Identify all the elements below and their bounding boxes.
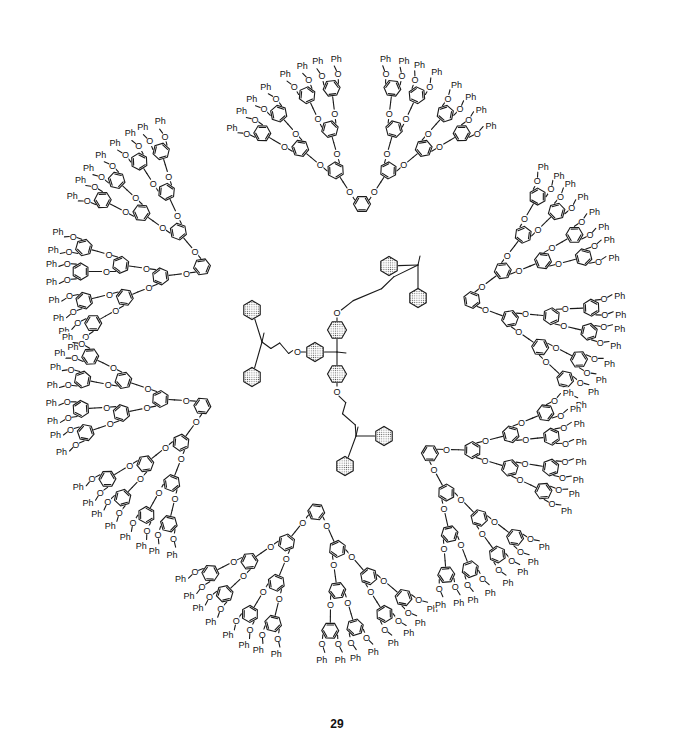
double-bond — [442, 569, 449, 570]
ether-bond — [450, 138, 455, 141]
methylene-bond — [530, 314, 537, 315]
phenyl-terminal-label: Ph — [335, 655, 346, 665]
oxygen-atom: O — [106, 290, 113, 300]
oxygen-atom: O — [66, 291, 73, 301]
methylene-bond — [105, 313, 111, 316]
phenyl-terminal-label: Ph — [48, 245, 59, 255]
methylene-bond — [115, 207, 121, 210]
phenyl-terminal-label: Ph — [565, 179, 576, 189]
double-bond — [545, 434, 546, 441]
methyl-bond — [356, 427, 358, 436]
ether-bond — [538, 438, 543, 439]
ether-bond — [411, 103, 413, 108]
dendrimer-structure-diagram: OOO OOOOPhOPhOOPhOPhOOOPhOPhOOPhOPhOOOOP… — [0, 0, 674, 749]
phenyl-terminal-label: Ph — [435, 600, 446, 610]
oxygen-atom: O — [591, 354, 598, 364]
methylene-bond — [329, 530, 332, 536]
phenyl-terminal-label: Ph — [608, 253, 619, 263]
benzyl-bond — [556, 504, 561, 505]
oxygen-atom: O — [436, 584, 443, 594]
phenyl-terminal-label: Ph — [48, 295, 59, 305]
ether-bond — [335, 577, 336, 582]
methyl-bond — [262, 333, 264, 342]
oxygen-atom: O — [183, 396, 190, 406]
benzyl-bond — [62, 370, 67, 371]
methylene-bond — [523, 335, 529, 339]
benzyl-bond — [93, 175, 98, 176]
double-bond — [503, 551, 504, 558]
oxygen-atom: O — [317, 160, 324, 170]
ether-bond — [332, 536, 334, 541]
oxygen-atom: O — [126, 461, 133, 471]
phenyl-terminal-label: Ph — [554, 171, 565, 181]
benzyl-ring — [73, 263, 88, 280]
phenyl-terminal-label: Ph — [46, 277, 57, 287]
oxygen-atom: O — [386, 109, 393, 119]
oxygen-atom: O — [143, 264, 150, 274]
oxygen-atom: O — [137, 474, 144, 484]
propyl-bond — [339, 396, 346, 403]
phenyl-terminal-label: Ph — [205, 617, 216, 627]
ether-bond — [186, 431, 189, 435]
oxygen-atom: O — [65, 247, 72, 257]
ether-bond — [492, 276, 496, 279]
oxygen-atom: O — [522, 459, 529, 469]
benzyl-bond — [602, 257, 606, 260]
ether-bond — [218, 567, 223, 569]
oxygen-atom: O — [560, 321, 567, 331]
propyl-bond — [353, 289, 381, 301]
ether-bond — [131, 383, 136, 385]
phenyl-terminal-label: Ph — [485, 121, 496, 131]
ether-bond — [92, 297, 97, 298]
phenyl-terminal-label: Ph — [316, 655, 327, 665]
phenyl-terminal-label: Ph — [539, 542, 550, 552]
propyl-bond — [280, 343, 289, 354]
methylene-bond — [103, 363, 109, 366]
oxygen-atom: O — [522, 309, 529, 319]
oxygen-atom: O — [482, 305, 489, 315]
oxygen-atom: O — [405, 608, 412, 618]
oxygen-atom: O — [283, 554, 290, 564]
methylene-bond — [408, 108, 411, 114]
oxygen-atom: O — [65, 413, 72, 423]
oxygen-atom: O — [549, 499, 556, 509]
phenyl-terminal-label: Ph — [167, 550, 178, 560]
methylene-bond — [135, 267, 142, 268]
oxygen-atom: O — [479, 574, 486, 584]
oxygen-atom: O — [508, 556, 515, 566]
oxygen-atom: O — [597, 338, 604, 348]
ether-bond — [128, 487, 132, 491]
oxygen-atom: O — [191, 567, 198, 577]
methylene-bond — [524, 266, 530, 269]
benzyl-bond — [60, 253, 65, 254]
methylene-bond — [295, 526, 299, 531]
dendron-right-upper: OOOOPhOPhOOPhOPhOOOPhOPhOOPhOPhOOOOPhOPh… — [464, 161, 627, 410]
oxygen-atom: O — [159, 223, 166, 233]
dendron-right-lower: OOOOPhOPhOOPhOPhOOOPhOPhOOPhOPhOOOOPhOPh… — [421, 387, 587, 609]
double-bond — [536, 352, 543, 353]
ether-bond — [515, 241, 518, 245]
phenyl-terminal-label: Ph — [52, 227, 63, 237]
methylene-bond — [177, 464, 180, 471]
oxygen-atom: O — [482, 436, 489, 446]
oxygen-atom: O — [292, 129, 299, 139]
oxygen-atom: O — [70, 307, 77, 317]
benzyl-bond — [564, 409, 568, 412]
phenyl-terminal-label: Ph — [604, 235, 615, 245]
benzyl-bond — [608, 295, 612, 297]
phenyl-terminal-label: Ph — [95, 150, 106, 160]
oxygen-atom: O — [457, 540, 464, 550]
oxygen-atom: O — [122, 150, 129, 160]
ether-bond — [332, 137, 333, 142]
oxygen-atom: O — [330, 560, 337, 570]
methylene-bond — [463, 550, 465, 557]
benzyl-bond — [569, 459, 574, 461]
phenyl-terminal-label: Ph — [380, 54, 391, 64]
methylene-bond — [542, 221, 547, 226]
oxygen-atom: O — [267, 542, 274, 552]
oxygen-atom: O — [601, 294, 608, 304]
double-bond — [541, 497, 548, 498]
phenyl-terminal-label: Ph — [578, 192, 589, 202]
ether-bond — [171, 510, 172, 515]
benzyl-ring — [530, 188, 545, 205]
